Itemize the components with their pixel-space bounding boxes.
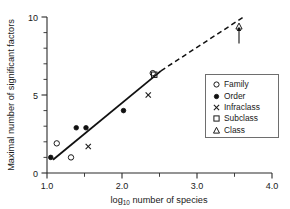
data-point-filled-circle bbox=[214, 94, 218, 98]
legend-label: Family bbox=[224, 79, 249, 90]
extrapolation-line bbox=[161, 17, 244, 71]
legend-label: Infraclass bbox=[224, 102, 260, 113]
regression-line bbox=[53, 71, 161, 160]
data-point-cross bbox=[214, 105, 219, 110]
data-point-open-circle bbox=[54, 141, 59, 146]
y-tick-label-10: 10 bbox=[28, 13, 38, 23]
legend-item-class[interactable]: Class bbox=[211, 125, 275, 136]
legend-item-infraclass[interactable]: Infraclass bbox=[211, 102, 275, 113]
x-tick-label-3: 3.0 bbox=[191, 181, 204, 191]
legend-marker-open-triangle-icon bbox=[211, 125, 224, 136]
legend-label: Class bbox=[224, 125, 245, 136]
legend-marker-open-square-icon bbox=[211, 113, 224, 124]
chart-figure: 10 5 0 1.0 2.0 3.0 4.0 log10 number of s… bbox=[0, 0, 290, 209]
legend-label: Order bbox=[224, 91, 245, 102]
y-axis-title: Maximal number of significant factors bbox=[6, 19, 16, 171]
data-point-filled-circle bbox=[48, 155, 53, 160]
data-point-cross bbox=[86, 144, 91, 149]
y-axis-ticks bbox=[42, 17, 48, 173]
data-point-filled-circle bbox=[74, 125, 79, 130]
x-tick-label-1: 1.0 bbox=[41, 181, 54, 191]
x-axis-ticks bbox=[47, 173, 272, 179]
legend-label: Subclass bbox=[224, 113, 258, 124]
legend-item-subclass[interactable]: Subclass bbox=[211, 113, 275, 124]
x-tick-label-4: 4.0 bbox=[266, 181, 279, 191]
data-point-open-circle bbox=[68, 155, 73, 160]
x-axis-title: log10 number of species bbox=[111, 195, 208, 206]
legend-marker-open-circle-icon bbox=[211, 79, 224, 90]
data-point-open-square bbox=[214, 116, 219, 121]
legend-marker-cross-icon bbox=[211, 102, 224, 113]
x-tick-label-2: 2.0 bbox=[116, 181, 129, 191]
chart-legend: FamilyOrderInfraclassSubclassClass bbox=[205, 74, 279, 138]
data-point-open-circle bbox=[214, 82, 219, 87]
y-tick-label-5: 5 bbox=[33, 91, 38, 101]
legend-marker-filled-circle-icon bbox=[211, 91, 224, 102]
data-point-open-circle bbox=[150, 70, 155, 75]
data-point-open-triangle bbox=[214, 127, 220, 133]
data-point-cross bbox=[146, 92, 151, 97]
legend-item-family[interactable]: Family bbox=[211, 79, 275, 90]
data-point-filled-circle bbox=[121, 108, 126, 113]
legend-item-order[interactable]: Order bbox=[211, 90, 275, 101]
data-point-filled-circle bbox=[84, 125, 89, 130]
y-tick-label-0: 0 bbox=[33, 169, 38, 179]
